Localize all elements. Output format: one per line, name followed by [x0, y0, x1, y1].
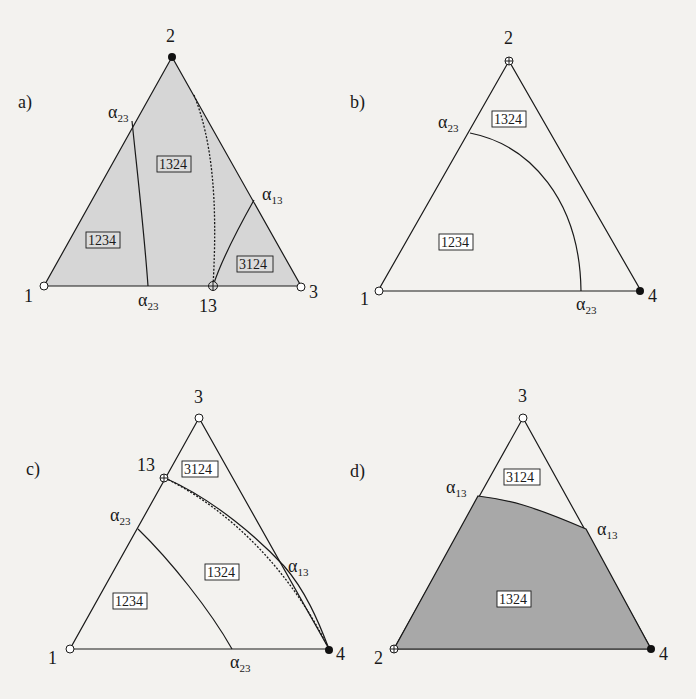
panel-b-vertex-4-filled-marker — [636, 287, 644, 295]
panel-d-region-3124-box: 3124 — [504, 469, 540, 485]
panel-d-vertex-2-crossed-marker — [390, 645, 398, 653]
panel-a-vertex-13-label: 13 — [199, 296, 217, 316]
panel-d-alpha13-right-label: α13 — [597, 519, 618, 541]
panel-b-region-1234-box: 1234 — [439, 234, 473, 250]
svg-text:3124: 3124 — [239, 257, 267, 272]
panel-b-vertex-1-open-marker — [375, 287, 383, 295]
panel-a-vertex-2-filled-marker — [168, 53, 176, 61]
panel-a-region-1324-box: 1324 — [157, 156, 191, 172]
panel-b-vertex-left-label: 1 — [360, 289, 369, 309]
panel-b-vertex-right-label: 4 — [648, 286, 657, 306]
panel-c-region-3124-box: 3124 — [182, 461, 218, 477]
panel-d-vertex-right-label: 4 — [659, 644, 668, 664]
panel-c-triangle — [70, 418, 329, 649]
panel-b-vertex-top-label: 2 — [504, 28, 513, 48]
panel-c-vertex-right-label: 4 — [336, 644, 345, 664]
panel-a-vertex-top-label: 2 — [166, 26, 175, 46]
panel-a-vertex-13-crossed-marker — [209, 282, 218, 291]
panel-a-vertex-1-open-marker — [40, 282, 48, 290]
svg-text:1324: 1324 — [494, 112, 522, 127]
panel-b: b) 2 1 4 α23 α23 1324 1234 — [350, 28, 657, 316]
panel-b-alpha23-bottom-label: α23 — [576, 294, 597, 316]
svg-text:1234: 1234 — [88, 233, 116, 248]
panel-c: c) 3 1 4 13 α23 α23 α13 3124 1324 1234 — [26, 387, 345, 674]
panel-b-triangle — [378, 61, 641, 291]
panel-d-vertex-top-label: 3 — [518, 386, 527, 406]
panel-c-vertex-13-label: 13 — [137, 455, 155, 475]
panel-a-region-3124-box: 3124 — [237, 256, 273, 272]
panel-c-vertex-top-label: 3 — [194, 387, 203, 407]
panel-c-alpha23-boundary — [138, 529, 232, 649]
panel-a-label: a) — [18, 92, 32, 113]
panel-c-region-1234-box: 1234 — [113, 593, 147, 609]
panel-c-alpha23-left-label: α23 — [110, 505, 131, 527]
panel-c-alpha13-label: α13 — [288, 556, 309, 578]
panel-d-region-1324-box: 1324 — [497, 591, 531, 607]
panel-c-vertex-1-open-marker — [66, 645, 74, 653]
panel-a-alpha13-label: α13 — [262, 184, 283, 206]
panel-a-vertex-right-label: 3 — [309, 282, 318, 302]
svg-text:1324: 1324 — [207, 565, 235, 580]
panel-d-vertex-3-open-marker — [519, 414, 527, 422]
svg-text:1324: 1324 — [159, 157, 187, 172]
panel-a-alpha23-bottom-label: α23 — [138, 290, 159, 312]
panel-a: a) 2 1 3 13 α23 α23 α13 1234 1324 3124 — [18, 26, 318, 316]
svg-text:1324: 1324 — [499, 592, 527, 607]
svg-text:3124: 3124 — [184, 462, 212, 477]
panel-b-region-1324-box: 1324 — [492, 111, 526, 127]
panel-c-label: c) — [26, 459, 40, 480]
panel-d-alpha13-left-label: α13 — [446, 477, 467, 499]
panel-c-vertex-4-filled-marker — [325, 646, 333, 654]
panel-b-alpha23-left-label: α23 — [438, 112, 459, 134]
panel-d-vertex-4-filled-marker — [647, 645, 655, 653]
panel-b-label: b) — [350, 92, 365, 113]
panel-c-region-1324-box: 1324 — [205, 564, 239, 580]
panel-c-alpha23-bottom-label: α23 — [230, 652, 251, 674]
panel-a-region-1234-box: 1234 — [86, 232, 120, 248]
panel-c-alpha13-boundary — [165, 478, 284, 566]
phase-diagram-figure: a) 2 1 3 13 α23 α23 α13 1234 1324 3124 — [0, 0, 696, 699]
panel-a-vertex-3-open-marker — [297, 283, 305, 291]
panel-d-shaded-region-1324 — [394, 496, 651, 649]
panel-c-vertex-13-crossed-marker — [160, 474, 168, 482]
panel-d-vertex-left-label: 2 — [374, 648, 383, 668]
svg-text:3124: 3124 — [506, 470, 534, 485]
panel-d-label: d) — [350, 461, 365, 482]
panel-c-vertex-3-open-marker — [195, 414, 203, 422]
panel-a-alpha23-left-label: α23 — [108, 102, 129, 124]
panel-d: d) 3 2 4 α13 α13 3124 1324 — [350, 386, 668, 668]
panel-b-vertex-2-crossed-marker — [505, 57, 513, 65]
panel-a-vertex-left-label: 1 — [24, 286, 33, 306]
panel-c-vertex-left-label: 1 — [48, 648, 57, 668]
svg-text:1234: 1234 — [441, 235, 469, 250]
svg-text:1234: 1234 — [115, 594, 143, 609]
